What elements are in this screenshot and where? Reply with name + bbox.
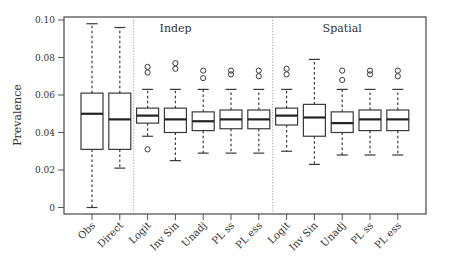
x-tick-label: PL ess xyxy=(233,220,264,251)
x-tick-label: Unadj xyxy=(179,220,208,249)
outlier-point xyxy=(256,68,261,73)
x-tick-label: Inv Sin xyxy=(287,219,320,252)
outlier-point xyxy=(228,68,233,73)
box-indep-pl-ss xyxy=(220,68,242,153)
x-tick-label: Unadj xyxy=(318,220,347,249)
chart-canvas: 00.020.040.060.080.10 ObsDirectLogitInv … xyxy=(0,0,452,268)
y-tick-label: 0.04 xyxy=(35,128,55,138)
outlier-point xyxy=(284,66,289,71)
outlier-point xyxy=(173,66,178,71)
x-tick-label: Logit xyxy=(266,220,292,246)
x-tick-label: Obs xyxy=(76,220,98,242)
x-axis: ObsDirectLogitInv SinUnadjPL ssPL essLog… xyxy=(76,214,404,253)
outlier-point xyxy=(284,72,289,77)
box-spatial-unadj xyxy=(331,68,353,155)
outlier-point xyxy=(256,74,261,79)
panel-label-indep: Indep xyxy=(160,22,192,35)
box-obs xyxy=(81,24,103,208)
panel-label-spatial: Spatial xyxy=(323,22,363,35)
box-direct xyxy=(109,28,131,169)
outlier-point xyxy=(340,77,345,82)
outlier-point xyxy=(173,61,178,66)
panel-labels: IndepSpatial xyxy=(160,22,363,35)
box-indep-pl-ess xyxy=(248,68,270,153)
outlier-point xyxy=(145,64,150,69)
box-indep-logit xyxy=(137,64,159,152)
y-tick-label: 0.08 xyxy=(35,53,55,63)
y-tick-label: 0 xyxy=(49,203,55,213)
x-tick-label: Logit xyxy=(127,220,153,246)
outlier-point xyxy=(395,68,400,73)
box-spatial-pl-ess xyxy=(387,68,409,155)
outlier-point xyxy=(145,70,150,75)
y-tick-label: 0.02 xyxy=(35,165,55,175)
box-spatial-pl-ss xyxy=(359,68,381,155)
y-axis-title: Prevalence xyxy=(11,84,24,146)
box-spatial-inv-sin xyxy=(303,59,325,164)
iqr-box xyxy=(81,93,103,149)
box-indep-unadj xyxy=(192,68,214,153)
outlier-point xyxy=(395,74,400,79)
boxplot-chart: 00.020.040.060.080.10 ObsDirectLogitInv … xyxy=(0,0,452,268)
iqr-box xyxy=(109,93,131,149)
outlier-point xyxy=(201,76,206,81)
box-indep-inv-sin xyxy=(164,61,186,161)
x-tick-label: PL ess xyxy=(372,220,403,251)
iqr-box xyxy=(303,104,325,136)
outlier-point xyxy=(340,68,345,73)
outlier-point xyxy=(201,68,206,73)
y-axis: 00.020.040.060.080.10 xyxy=(35,15,64,213)
outlier-point xyxy=(145,147,150,152)
box-spatial-logit xyxy=(276,66,298,151)
y-tick-label: 0.06 xyxy=(35,90,55,100)
box-series xyxy=(81,24,409,208)
outlier-point xyxy=(367,68,372,73)
x-tick-label: Direct xyxy=(95,220,125,250)
y-tick-label: 0.10 xyxy=(35,15,55,25)
x-tick-label: Inv Sin xyxy=(148,219,181,252)
